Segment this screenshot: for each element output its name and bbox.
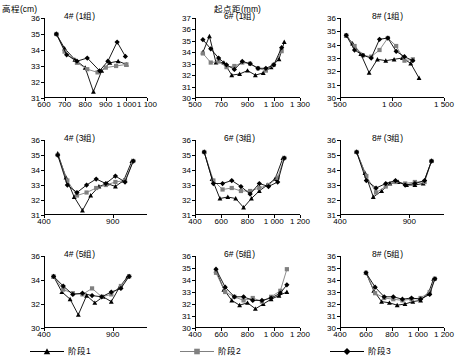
x-tick-label: 700 xyxy=(215,100,228,109)
x-tick-label: 400 xyxy=(37,330,50,339)
data-point-marker xyxy=(388,181,393,185)
data-point-marker xyxy=(371,288,376,292)
data-point-marker xyxy=(232,64,236,68)
data-point-marker xyxy=(429,159,434,163)
data-point-marker xyxy=(104,183,108,187)
data-point-marker xyxy=(232,67,237,72)
x-tick-label: 1 500 xyxy=(434,100,454,109)
chart-panel: 6# (3组)3132333435364006008001 0001 200 xyxy=(0,0,457,364)
data-point-marker xyxy=(354,150,359,154)
series-layer xyxy=(0,0,457,364)
data-point-marker xyxy=(344,33,349,38)
data-point-marker xyxy=(114,64,118,68)
y-tick-mark xyxy=(337,200,340,201)
data-point-marker xyxy=(237,72,242,76)
y-tick-mark xyxy=(41,170,44,171)
series-line xyxy=(54,276,130,296)
data-point-marker xyxy=(123,54,128,59)
y-tick-mark xyxy=(337,316,340,317)
y-tick-mark xyxy=(192,280,195,281)
data-point-marker xyxy=(230,186,234,190)
series-line xyxy=(216,269,287,301)
y-tick-mark xyxy=(337,31,340,32)
data-point-marker xyxy=(97,184,102,188)
y-tick-label: 35 xyxy=(173,36,191,45)
data-point-marker xyxy=(410,58,415,63)
x-tick-label: 1 100 xyxy=(264,100,284,109)
data-point-marker xyxy=(99,294,104,299)
series-layer xyxy=(0,0,457,364)
data-point-marker xyxy=(248,61,253,66)
legend-marker-triangle-icon xyxy=(30,343,70,361)
data-point-marker xyxy=(209,60,213,64)
data-point-marker xyxy=(95,70,99,74)
plot-area xyxy=(340,256,444,328)
x-tick-mark xyxy=(65,98,66,101)
panel-title: 8# (3组) xyxy=(372,131,403,143)
data-point-marker xyxy=(418,297,423,302)
y-tick-label: 36 xyxy=(318,252,336,261)
data-point-marker xyxy=(284,282,289,287)
data-point-marker xyxy=(394,49,399,54)
data-point-marker xyxy=(229,298,234,302)
data-point-marker xyxy=(68,297,73,301)
x-tick-label: 1 100 xyxy=(137,100,157,109)
data-point-marker xyxy=(395,303,400,307)
x-tick-mark xyxy=(195,98,196,101)
data-point-marker xyxy=(124,62,128,66)
y-tick-mark xyxy=(192,185,195,186)
y-tick-mark xyxy=(192,256,195,257)
data-point-marker xyxy=(428,290,432,294)
data-point-marker xyxy=(364,174,368,178)
x-tick-mark xyxy=(418,328,419,331)
data-point-marker xyxy=(363,270,368,275)
data-point-marker xyxy=(282,155,287,160)
data-point-marker xyxy=(285,267,289,271)
data-point-marker xyxy=(223,290,227,294)
x-tick-mark xyxy=(85,98,86,101)
data-point-marker xyxy=(208,46,213,51)
x-tick-mark xyxy=(409,215,410,218)
plot-area xyxy=(195,18,300,98)
data-point-marker xyxy=(402,54,407,59)
data-point-marker xyxy=(354,149,359,154)
x-tick-mark xyxy=(221,215,222,218)
x-tick-mark xyxy=(274,98,275,101)
data-point-marker xyxy=(358,52,363,56)
data-point-marker xyxy=(80,291,85,296)
x-tick-mark xyxy=(195,215,196,218)
plot-area xyxy=(44,256,147,328)
data-point-marker xyxy=(266,183,270,187)
data-point-marker xyxy=(271,62,276,67)
data-point-marker xyxy=(124,62,129,66)
data-point-marker xyxy=(385,35,390,40)
x-tick-mark xyxy=(300,215,301,218)
data-point-marker xyxy=(269,65,274,69)
y-tick-label: 35 xyxy=(22,151,40,160)
series-line xyxy=(203,36,284,75)
y-tick-mark xyxy=(192,41,195,42)
y-tick-label: 30 xyxy=(173,324,191,333)
data-point-marker xyxy=(282,156,286,160)
x-tick-label: 1 200 xyxy=(290,330,310,339)
series-line xyxy=(56,34,126,72)
x-tick-label: 900 xyxy=(241,100,254,109)
y-tick-label: 31 xyxy=(22,94,40,103)
x-tick-mark xyxy=(444,328,445,331)
y-tick-mark xyxy=(192,268,195,269)
data-point-marker xyxy=(52,274,56,278)
series-layer xyxy=(0,0,457,364)
data-point-marker xyxy=(364,271,368,275)
y-tick-mark xyxy=(192,29,195,30)
x-tick-mark xyxy=(221,328,222,331)
series-line xyxy=(54,276,130,296)
data-point-marker xyxy=(412,181,417,186)
chart-panel: 6# (1组)30313233343536375007009001 1001 3… xyxy=(0,0,457,364)
data-point-marker xyxy=(224,65,228,69)
data-point-marker xyxy=(432,276,437,281)
series-line xyxy=(357,152,432,197)
panel-title: 4# (3组) xyxy=(64,131,95,143)
data-point-marker xyxy=(433,277,437,281)
data-point-marker xyxy=(259,298,264,303)
data-point-marker xyxy=(371,195,376,199)
